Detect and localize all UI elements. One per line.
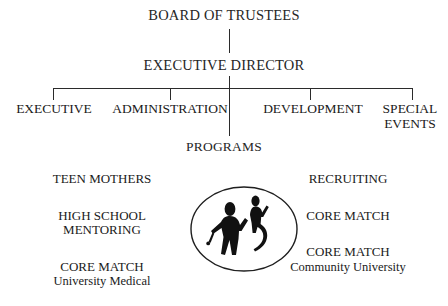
node-programs: PROGRAMS [0,140,448,154]
program-title: CORE MATCH [22,260,182,275]
connector-stub-administration [170,88,171,100]
node-administration: ADMINISTRATION [100,102,240,117]
connector-horizontal-bus [53,88,413,89]
node-executive: EXECUTIVE [8,102,100,117]
connector-stub-special-events [412,88,413,100]
org-chart: BOARD OF TRUSTEES EXECUTIVE DIRECTOR EXE… [0,0,448,306]
program-subtitle: University Medical [22,274,182,288]
program-title: HIGH SCHOOL [22,209,182,224]
node-special-events-line1: SPECIAL [383,101,438,116]
connector-stub-executive [53,88,54,100]
program-title-line2: MENTORING [22,223,182,238]
node-executive-director: EXECUTIVE DIRECTOR [0,58,448,73]
node-special-events-line2: EVENTS [384,116,436,131]
connector-stub-development [310,88,311,100]
program-item: HIGH SCHOOL MENTORING [22,209,182,238]
connector-board-to-director [229,29,230,53]
program-item: CORE MATCH University Medical [22,260,182,289]
logo-oval-outline [191,187,297,271]
program-title: TEEN MOTHERS [22,172,182,187]
node-board-of-trustees: BOARD OF TRUSTEES [0,8,448,23]
programs-left-column: TEEN MOTHERS HIGH SCHOOL MENTORING CORE … [22,172,182,288]
two-figures-oval-logo [189,185,299,273]
node-development: DEVELOPMENT [258,102,368,117]
program-item: TEEN MOTHERS [22,172,182,187]
logo-svg [189,185,299,273]
node-special-events: SPECIAL EVENTS [372,102,448,131]
